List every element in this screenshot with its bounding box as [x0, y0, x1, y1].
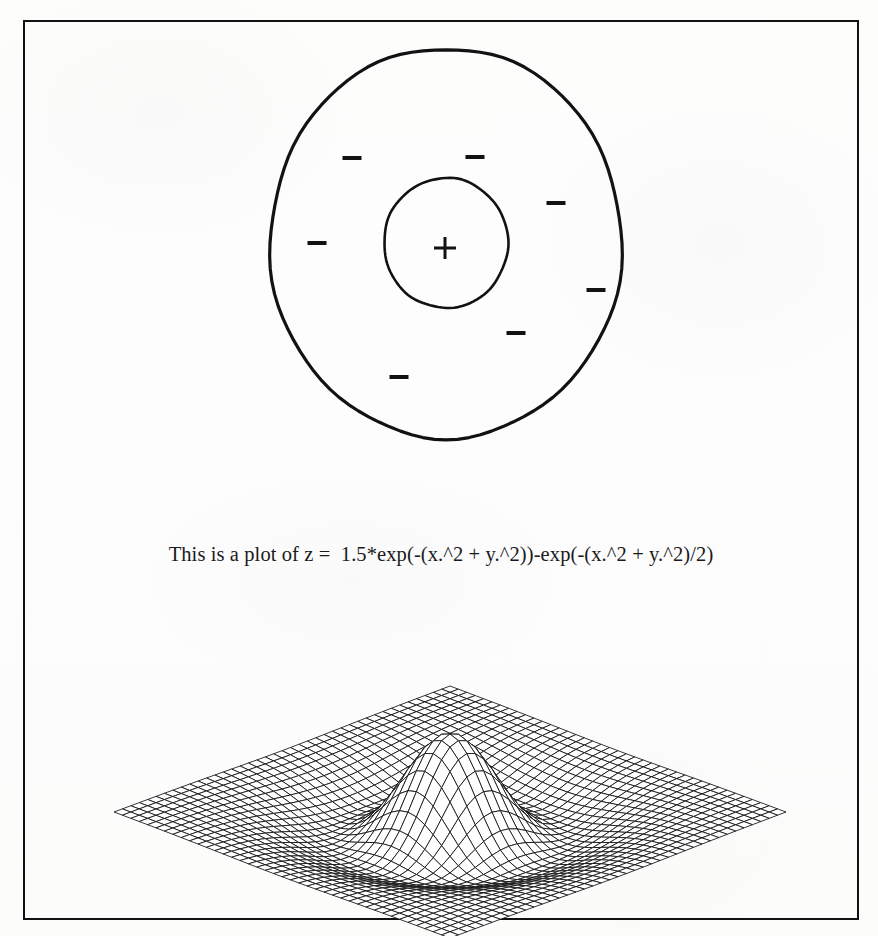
plot-caption: This is a plot of z = 1.5*exp(-(x.^2 + y… — [23, 543, 859, 566]
contour-minus-marker-4 — [308, 241, 327, 245]
contour-minus-marker-1 — [343, 156, 362, 160]
mesh-surface-svg — [60, 600, 840, 910]
contour-minus-marker-7 — [390, 375, 409, 379]
mesh-surface-figure — [60, 600, 840, 910]
marker-vertical-bar — [444, 237, 447, 259]
marker-horizontal-bar — [343, 156, 362, 160]
marker-horizontal-bar — [507, 331, 526, 335]
marker-horizontal-bar — [308, 241, 327, 245]
contour-minus-marker-3 — [547, 201, 566, 205]
contour-plus-marker — [434, 237, 456, 259]
contour-minus-marker-5 — [587, 288, 606, 292]
marker-horizontal-bar — [587, 288, 606, 292]
marker-horizontal-bar — [390, 375, 409, 379]
contour-minus-marker-6 — [507, 331, 526, 335]
contour-minus-marker-2 — [466, 155, 485, 159]
marker-horizontal-bar — [466, 155, 485, 159]
contour-plot-figure — [23, 20, 859, 490]
contour-plot-svg — [23, 20, 859, 490]
mesh-wireframe-lines — [114, 686, 786, 936]
inner-contour — [385, 178, 509, 308]
marker-horizontal-bar — [547, 201, 566, 205]
